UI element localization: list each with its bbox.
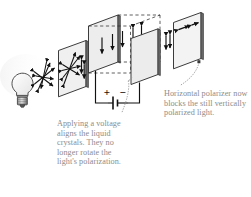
battery-symbol — [108, 97, 128, 110]
caption-applying-voltage: Applying a voltage aligns the liquid cry… — [57, 119, 131, 167]
lcd-diagram-figure: + − Applying a voltag — [0, 0, 251, 197]
polarizer-leader-anchor — [197, 60, 200, 63]
battery-minus-label: − — [119, 86, 125, 98]
battery-plus-label: + — [104, 86, 110, 98]
vertical-polarizer-panel — [59, 41, 89, 97]
polarizer-leader-line — [180, 63, 199, 86]
light-bulb-icon — [12, 73, 33, 107]
still-vertical-arrows — [166, 35, 170, 50]
caption-horizontal-polarizer: Horizontal polarizer now blocks the stil… — [164, 89, 250, 118]
liquid-crystal-cell — [89, 15, 161, 85]
